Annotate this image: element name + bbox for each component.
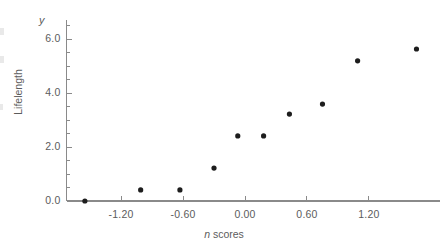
x-axis-title: n scores: [0, 228, 448, 240]
data-point: [261, 133, 266, 138]
data-point: [320, 101, 325, 106]
scatter-plot-figure: y 0.02.04.06.0 -1.20-0.600.000.601.20 n …: [0, 0, 448, 247]
data-point: [355, 58, 360, 63]
x-tick-label: -1.20: [98, 208, 144, 220]
axes-lines: [67, 20, 441, 201]
y-tick-label: 2.0: [29, 140, 61, 152]
x-axis-title-rest: scores: [210, 228, 244, 240]
data-points: [82, 46, 419, 203]
y-tick-label: 4.0: [29, 86, 61, 98]
x-tick-label: 1.20: [346, 208, 392, 220]
data-point: [287, 111, 292, 116]
x-tick-label: -0.60: [160, 208, 206, 220]
y-tick-label: 6.0: [29, 32, 61, 44]
data-point: [138, 187, 143, 192]
y-tick-label: 0.0: [29, 194, 61, 206]
data-point: [82, 198, 87, 203]
y-axis-symbol: y: [39, 14, 45, 26]
x-tick-label: 0.00: [222, 208, 268, 220]
data-point: [211, 165, 216, 170]
data-point: [414, 46, 419, 51]
data-point: [235, 133, 240, 138]
data-point: [177, 187, 182, 192]
y-axis-title: Lifelength: [12, 52, 24, 132]
axis-ticks: [67, 26, 369, 202]
x-tick-label: 0.60: [284, 208, 330, 220]
